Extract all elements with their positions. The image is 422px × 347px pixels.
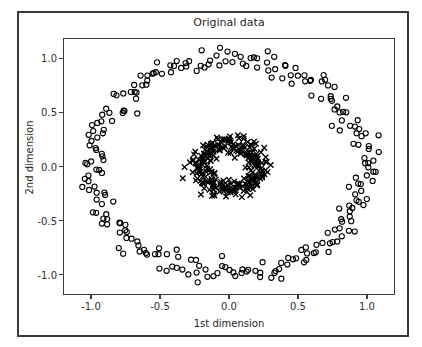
y-tick-label: 1.0	[21, 53, 57, 64]
x-axis-label: 1st dimension	[63, 318, 395, 329]
scatter-canvas	[64, 39, 394, 294]
x-tick-label: -1.0	[81, 301, 101, 312]
series-inner-circle	[180, 132, 273, 199]
x-tick-mark	[297, 295, 298, 299]
page-title: Original data	[63, 16, 395, 30]
x-tick-mark	[366, 295, 367, 299]
x-tick-mark	[90, 295, 91, 299]
x-tick-label: 1.0	[359, 301, 375, 312]
y-tick-mark	[59, 274, 63, 275]
y-tick-mark	[59, 112, 63, 113]
series-outer-circle	[80, 45, 382, 285]
plot-axes	[63, 38, 395, 295]
x-tick-mark	[228, 295, 229, 299]
matplotlib-figure: Original data -1.0-0.50.00.51.0 -1.0-0.5…	[0, 0, 422, 347]
x-tick-label: -0.5	[150, 301, 170, 312]
x-tick-label: 0.5	[290, 301, 306, 312]
y-axis-label: 2nd dimension	[24, 98, 35, 218]
x-tick-mark	[159, 295, 160, 299]
y-tick-mark	[59, 220, 63, 221]
y-tick-mark	[59, 58, 63, 59]
y-tick-label: -1.0	[21, 269, 57, 280]
x-tick-label: 0.0	[221, 301, 237, 312]
y-tick-mark	[59, 166, 63, 167]
